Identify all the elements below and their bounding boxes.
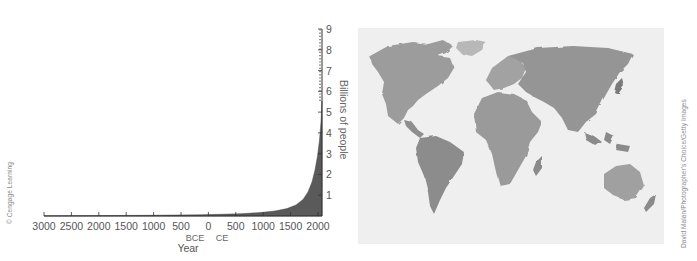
y-tick-labels: 1 2 3 4 5 6 7 8 9 bbox=[326, 23, 332, 201]
y-tick-label: 9 bbox=[326, 23, 332, 35]
australia bbox=[604, 164, 644, 200]
x-tick-label: 500 bbox=[227, 220, 245, 232]
y-tick-label: 2 bbox=[326, 168, 332, 180]
x-tick-label: 2000 bbox=[87, 220, 111, 232]
new-zealand bbox=[644, 194, 656, 212]
greenland bbox=[456, 40, 486, 56]
y-tick-label: 4 bbox=[326, 127, 332, 139]
x-tick-label: 1000 bbox=[142, 220, 166, 232]
x-tick-label: 2000 bbox=[306, 220, 330, 232]
x-tick-label: 1000 bbox=[252, 220, 276, 232]
madagascar bbox=[533, 156, 542, 176]
north-america bbox=[370, 40, 454, 124]
x-tick-label: 0 bbox=[205, 220, 211, 232]
south-america bbox=[416, 136, 464, 214]
photo-credit: David Malan/Photographer's Choice/Getty … bbox=[680, 99, 687, 248]
y-tick-label: 5 bbox=[326, 106, 332, 118]
x-tick-label: 1500 bbox=[115, 220, 139, 232]
population-chart-svg: 3000 2500 2000 1500 1000 500 0 500 1000 … bbox=[0, 0, 360, 261]
x-axis-title: Year bbox=[177, 242, 199, 254]
x-tick-label: 1500 bbox=[279, 220, 303, 232]
world-map-svg bbox=[358, 28, 664, 244]
y-tick-label: 1 bbox=[326, 189, 332, 201]
japan bbox=[614, 78, 624, 94]
x-tick-label: 3000 bbox=[32, 220, 56, 232]
population-chart: 3000 2500 2000 1500 1000 500 0 500 1000 … bbox=[0, 0, 360, 261]
central-america bbox=[404, 120, 424, 138]
x-tick-labels: 3000 2500 2000 1500 1000 500 0 500 1000 … bbox=[32, 220, 330, 232]
population-area bbox=[44, 101, 322, 216]
x-tick-label: 500 bbox=[172, 220, 190, 232]
y-axis-title: Billions of people bbox=[338, 80, 350, 160]
africa bbox=[474, 92, 542, 186]
y-tick-label: 7 bbox=[326, 65, 332, 77]
world-map-photo bbox=[358, 28, 664, 244]
southeast-asia-islands bbox=[584, 132, 630, 152]
y-tick-label: 3 bbox=[326, 148, 332, 160]
y-tick-label: 8 bbox=[326, 44, 332, 56]
chart-credit: © Cengage Learning bbox=[6, 162, 13, 224]
y-tick-label: 6 bbox=[326, 85, 332, 97]
x-tick-label: 2500 bbox=[60, 220, 84, 232]
ce-label: CE bbox=[216, 233, 229, 243]
